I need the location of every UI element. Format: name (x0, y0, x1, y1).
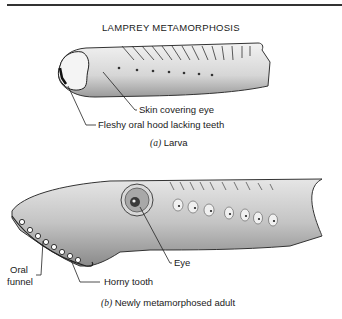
caption-a-text: Larva (164, 137, 188, 148)
caption-b: (b) Newly metamorphosed adult (101, 297, 235, 308)
label-horny-tooth: Horny tooth (104, 276, 153, 287)
lamprey-illustration (0, 0, 342, 319)
label-funnel: funnel (7, 276, 33, 287)
caption-b-letter: (b) (101, 298, 112, 308)
caption-a-letter: (a) (150, 138, 161, 148)
caption-a: (a) Larva (150, 137, 187, 148)
label-skin-covering-eye: Skin covering eye (139, 104, 214, 115)
adult-drawing (12, 179, 322, 282)
caption-b-text: Newly metamorphosed adult (115, 297, 235, 308)
label-eye: Eye (174, 257, 190, 268)
label-fleshy-oral-hood: Fleshy oral hood lacking teeth (98, 119, 224, 130)
label-oral: Oral (10, 264, 28, 275)
